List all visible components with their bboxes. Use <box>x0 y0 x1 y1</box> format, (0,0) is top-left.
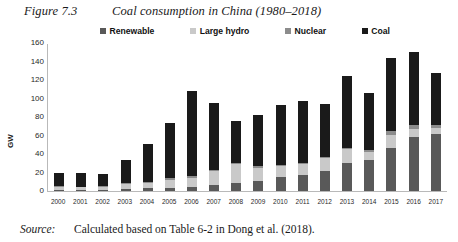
bar-column[interactable] <box>92 44 114 191</box>
legend-item-nuclear[interactable]: Nuclear <box>285 26 326 36</box>
bar-segment-renewable <box>209 185 219 191</box>
bar-segment-coal <box>386 58 396 131</box>
legend-item-renewable[interactable]: Renewable <box>100 26 154 36</box>
bar-column[interactable] <box>203 44 225 191</box>
y-axis-tick: 140 <box>18 56 44 65</box>
stacked-bar[interactable] <box>386 58 396 191</box>
bar-segment-coal <box>143 144 153 182</box>
y-axis-tick: 80 <box>18 112 44 121</box>
x-axis-tick: 2010 <box>269 198 291 210</box>
y-axis-tick: 100 <box>18 93 44 102</box>
stacked-bar[interactable] <box>121 160 131 191</box>
bar-segment-renewable <box>409 137 419 191</box>
bar-segment-coal <box>231 121 241 164</box>
source-label: Source: <box>20 223 72 235</box>
bar-column[interactable] <box>314 44 336 191</box>
bar-column[interactable] <box>137 44 159 191</box>
bar-segment-coal <box>209 103 219 170</box>
bar-column[interactable] <box>225 44 247 191</box>
stacked-bar[interactable] <box>298 101 308 191</box>
bar-segment-large-hydro <box>298 164 308 175</box>
bar-segment-coal <box>253 115 263 166</box>
legend-swatch-coal-icon <box>362 28 368 34</box>
bar-segment-large-hydro <box>276 166 286 177</box>
stacked-bar[interactable] <box>364 93 374 191</box>
bar-segment-renewable <box>187 187 197 191</box>
source-note: Source: Calculated based on Table 6-2 in… <box>20 221 450 236</box>
stacked-bar[interactable] <box>54 173 64 191</box>
legend-item-coal[interactable]: Coal <box>362 26 390 36</box>
bar-segment-renewable <box>54 190 64 191</box>
bar-segment-renewable <box>386 148 396 191</box>
x-axis-tick: 2016 <box>403 198 425 210</box>
stacked-bar[interactable] <box>143 144 153 191</box>
stacked-bar[interactable] <box>231 121 241 191</box>
bar-segment-coal <box>76 173 86 187</box>
plot-area <box>47 44 447 192</box>
x-axis-tick: 2003 <box>114 198 136 210</box>
source-text: Calculated based on Table 6-2 in Dong et… <box>74 223 315 235</box>
stacked-bar[interactable] <box>187 91 197 191</box>
y-axis-tick: 40 <box>18 149 44 158</box>
bar-segment-coal <box>276 105 286 165</box>
y-axis-tick: 160 <box>18 38 44 47</box>
x-axis-tick: 2013 <box>336 198 358 210</box>
bar-segment-renewable <box>121 189 131 191</box>
bar-column[interactable] <box>336 44 358 191</box>
bar-segment-large-hydro <box>409 129 419 137</box>
bar-column[interactable] <box>292 44 314 191</box>
y-axis-tick: 20 <box>18 167 44 176</box>
bar-segment-renewable <box>143 188 153 191</box>
x-axis-tick: 2001 <box>69 198 91 210</box>
x-axis-tick: 2009 <box>247 198 269 210</box>
figure-title: Coal consumption in China (1980–2018) <box>112 4 321 19</box>
stacked-bar[interactable] <box>76 173 86 191</box>
legend-item-large-hydro[interactable]: Large hydro <box>190 26 249 36</box>
y-axis-tick: 60 <box>18 130 44 139</box>
stacked-bar[interactable] <box>276 105 286 191</box>
legend-swatch-renewable-icon <box>100 28 106 34</box>
bar-segment-coal <box>320 104 330 157</box>
x-axis-tick: 2000 <box>47 198 69 210</box>
stacked-bar[interactable] <box>165 123 175 191</box>
bar-column[interactable] <box>159 44 181 191</box>
bar-column[interactable] <box>70 44 92 191</box>
legend-swatch-large-hydro-icon <box>190 28 196 34</box>
bar-column[interactable] <box>425 44 447 191</box>
stacked-bar[interactable] <box>253 115 263 191</box>
stacked-bar[interactable] <box>320 104 330 191</box>
bar-segment-coal <box>409 52 419 125</box>
bar-column[interactable] <box>181 44 203 191</box>
bar-segment-renewable <box>342 163 352 191</box>
bar-segment-renewable <box>298 175 308 191</box>
x-axis-tick: 2006 <box>180 198 202 210</box>
bar-column[interactable] <box>270 44 292 191</box>
stacked-bar[interactable] <box>409 52 419 191</box>
x-axis-tick: 2005 <box>158 198 180 210</box>
bar-segment-coal <box>364 93 374 150</box>
bar-segment-coal <box>431 73 441 126</box>
stacked-bar[interactable] <box>98 174 108 191</box>
bar-column[interactable] <box>380 44 402 191</box>
bar-column[interactable] <box>403 44 425 191</box>
x-axis-tick: 2017 <box>425 198 447 210</box>
stacked-bar[interactable] <box>431 73 441 191</box>
bar-segment-renewable <box>320 171 330 191</box>
bar-segment-large-hydro <box>342 149 352 163</box>
stacked-bar[interactable] <box>342 76 352 191</box>
stacked-bar[interactable] <box>209 103 219 191</box>
bar-column[interactable] <box>48 44 70 191</box>
x-axis-tick: 2002 <box>91 198 113 210</box>
figure-number: Figure 7.3 <box>24 4 104 19</box>
bar-column[interactable] <box>247 44 269 191</box>
bar-segment-renewable <box>364 160 374 191</box>
bar-column[interactable] <box>114 44 136 191</box>
x-axis-tick: 2008 <box>225 198 247 210</box>
bar-column[interactable] <box>358 44 380 191</box>
bar-segment-large-hydro <box>364 152 374 159</box>
bar-segment-coal <box>187 91 197 176</box>
legend-label-coal: Coal <box>371 26 390 36</box>
chart-legend: Renewable Large hydro Nuclear Coal <box>100 24 390 37</box>
bar-segment-large-hydro <box>187 178 197 187</box>
bar-segment-large-hydro <box>165 180 175 188</box>
